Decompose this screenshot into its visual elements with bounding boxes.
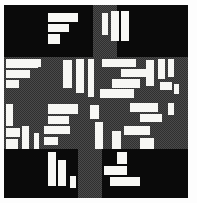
- white-rect-26: [34, 133, 39, 149]
- white-rect-7: [6, 70, 30, 78]
- white-rect-43: [104, 166, 127, 175]
- white-rect-42: [117, 152, 127, 164]
- white-rect-13: [102, 59, 136, 67]
- white-rect-23: [6, 128, 20, 137]
- white-rect-32: [95, 122, 103, 149]
- white-rect-19: [168, 59, 174, 77]
- white-rect-30: [44, 137, 58, 145]
- white-rect-31: [90, 105, 99, 119]
- white-rect-8: [6, 80, 19, 88]
- white-rect-24: [6, 139, 18, 149]
- white-rect-17: [146, 60, 154, 86]
- white-rect-22: [6, 104, 13, 126]
- abstract-pattern-figure: [0, 0, 197, 203]
- white-rect-10: [63, 60, 72, 88]
- white-rect-40: [58, 160, 66, 186]
- white-rect-35: [140, 114, 162, 122]
- white-rect-29: [44, 126, 70, 134]
- white-rect-5: [121, 11, 129, 41]
- white-rect-15: [112, 79, 140, 88]
- white-rect-37: [140, 138, 154, 149]
- white-rect-20: [160, 82, 172, 90]
- white-rect-1: [48, 24, 69, 32]
- white-rect-33: [112, 131, 121, 149]
- white-rect-21: [174, 84, 179, 94]
- white-rect-3: [102, 13, 108, 35]
- corner-bottom-left: [4, 149, 78, 198]
- white-rect-38: [168, 103, 174, 115]
- white-rect-12: [88, 59, 94, 97]
- arm-bottom-vertical: [78, 149, 102, 198]
- white-rect-44: [110, 177, 140, 186]
- white-rect-34: [130, 103, 158, 112]
- white-rect-4: [111, 11, 119, 41]
- white-rect-25: [22, 126, 29, 149]
- white-rect-18: [158, 59, 165, 79]
- white-rect-36: [124, 126, 150, 135]
- white-rect-41: [70, 176, 76, 188]
- white-rect-9: [33, 59, 41, 67]
- white-rect-2: [48, 34, 60, 44]
- white-rect-16: [100, 89, 134, 98]
- white-rect-28: [48, 116, 69, 124]
- white-rect-0: [48, 13, 78, 22]
- white-rect-27: [48, 104, 78, 114]
- white-rect-39: [48, 152, 56, 186]
- white-rect-11: [76, 59, 84, 93]
